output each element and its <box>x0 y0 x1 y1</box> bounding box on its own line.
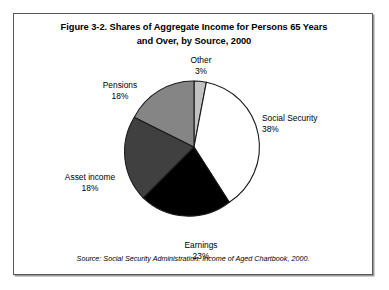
pie-label-social-security-value: 38% <box>262 124 358 135</box>
source-note: Source: Social Security Administration. … <box>14 254 372 264</box>
pie-label-pensions: Pensions 18% <box>86 80 154 102</box>
pie-label-pensions-name: Pensions <box>86 80 154 91</box>
pie-label-social-security: Social Security 38% <box>262 113 358 135</box>
pie-label-asset-income: Asset income 18% <box>49 172 131 194</box>
pie-label-pensions-value: 18% <box>86 91 154 102</box>
pie-chart: Other 3% Pensions 18% Asset income 18% S… <box>14 14 372 274</box>
pie-label-earnings-name: Earnings <box>165 240 237 251</box>
figure-frame: Figure 3-2. Shares of Aggregate Income f… <box>13 13 373 275</box>
pie-label-asset-income-name: Asset income <box>49 172 131 183</box>
pie-label-other-name: Other <box>164 55 238 66</box>
pie-label-other: Other 3% <box>164 55 238 77</box>
pie-label-asset-income-value: 18% <box>49 183 131 194</box>
pie-label-other-value: 3% <box>164 66 238 77</box>
pie-label-social-security-name: Social Security <box>262 113 358 124</box>
